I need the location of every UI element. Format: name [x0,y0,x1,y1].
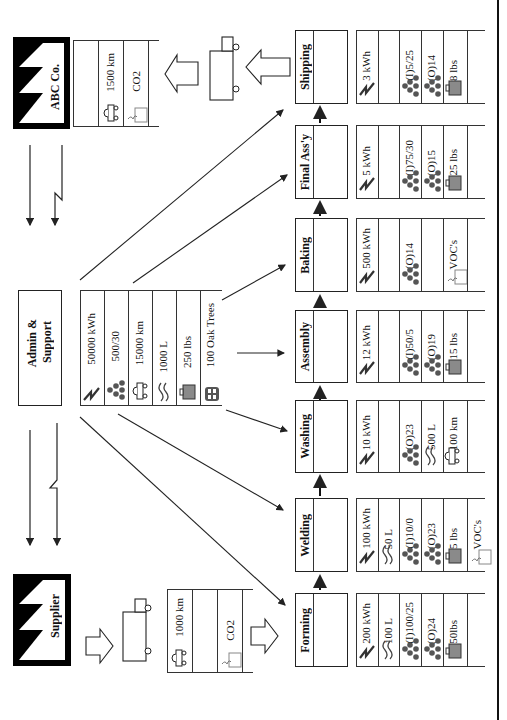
metric-cell: (I)5/25 [399,31,421,103]
metric-cell: (I)50/5 [399,311,421,382]
metric-cell: (O)19 [421,311,443,382]
electricity-icon [359,644,375,664]
process-label: Forming [298,608,313,653]
trash-bin-icon [446,174,464,196]
metric-cell [421,219,443,291]
truck-icon-customer [210,37,239,100]
metric-cell [378,311,399,382]
solid-waste-dots-icon [107,379,127,401]
metric-cell: (O)24 [421,594,443,666]
electricity-icon [359,360,375,380]
metric-value: 8 lbs [448,60,459,81]
metric-cell: 25 lbs [443,126,467,198]
process-forming: Forming [295,593,348,667]
vehicle-icon [134,381,148,401]
supplier-distance: 1000 km [174,598,185,637]
wood-icon [204,386,220,402]
process-welding: Welding [295,498,348,572]
metric-cell: 5 lbs [443,499,467,571]
metric-value: 200 kWh [361,603,372,644]
metric-table-shipping: 3 kWh(I)5/25(O)148 lbs [356,30,485,104]
metric-cell: (O)14 [421,31,443,103]
metric-cell: VOC's [443,219,467,291]
metric-cell: (O)23 [421,499,443,571]
solid-waste-dots-icon [424,543,442,569]
solid-waste-dots-icon [424,170,442,196]
solid-waste-dots-icon [402,638,420,664]
metric-cell: 100 kWh [356,499,378,571]
metric-cell: 3 kWh [356,31,378,103]
info-flow-customer-admin-2 [55,145,62,225]
supplier-transport-table: 1000 km CO2 [167,589,253,673]
admin-solidwaste-value: 500/30 [110,331,121,362]
metric-cell: 8 lbs [443,31,467,103]
info-flow-admin-supplier-2 [50,423,57,545]
process-washing: Washing [295,400,348,473]
supplier-factory: Supplier [13,574,71,666]
process-label: Final Ass'y [298,134,313,190]
vehicle-icon [173,648,187,668]
metric-value: 15 lbs [448,333,459,360]
admin-vehicle-value: 15000 km [134,321,145,365]
metric-value: 100 kWh [361,508,372,549]
solid-waste-dots-icon [402,75,420,101]
solid-waste-dots-icon [424,354,442,380]
metric-cell: VOC's [467,499,485,571]
process-label: Baking [298,237,313,274]
metric-cell: (O)14 [399,219,421,291]
admin-water-value: 1000 L [158,341,169,372]
electricity-icon [359,81,375,101]
metric-cell [378,126,399,198]
admin-trash-value: 250 lbs [182,336,193,368]
metric-value: 10 kWh [361,415,372,450]
customer-label: ABC Co. [49,57,61,117]
metric-cell: 50lbs [443,594,467,666]
solid-waste-dots-icon [424,638,442,664]
customer-factory: ABC Co. [13,37,70,129]
metric-cell [467,219,485,291]
metric-cell [378,401,399,472]
metric-cell: (I)10/0 [399,499,421,571]
emission-icon [470,549,492,569]
electricity-icon [359,176,375,196]
metric-value: 25 lbs [448,149,459,176]
admin-wood-value: 100 Oak Trees [205,303,216,367]
metric-value: 12 kWh [361,325,372,360]
block-arrow-4 [165,55,198,92]
water-icon [381,640,395,664]
metric-cell: 10 kWh [356,401,378,472]
metric-cell [467,126,485,198]
metric-table-final-ass-y: 5 kWh(I)75/30(O)1525 lbs [356,125,485,199]
water-icon [424,446,438,470]
metric-value: 100 km [448,417,459,450]
vehicle-icon [446,446,460,470]
metric-cell: 12 kWh [356,311,378,382]
block-arrow-1 [86,629,113,663]
metric-value: 50lbs [448,620,459,644]
metric-cell: 500 kWh [356,219,378,291]
customer-distance: 1500 km [105,53,116,92]
process-final-assembly: Final Ass'y [295,125,348,199]
metric-cell: (I)100/25 [399,594,421,666]
solid-waste-dots-icon [402,543,420,569]
admin-label-line1: Admin & [26,319,38,367]
block-arrow-3 [246,50,290,84]
electricity-icon [359,269,375,289]
factory-icon [13,574,71,666]
metric-table-forming: 200 kWh100 L(I)100/25(O)2450lbs [356,593,485,667]
process-label: Welding [298,514,313,557]
solid-waste-dots-icon [402,354,420,380]
customer-transport-table: 1500 km CO2 [73,40,159,127]
metric-cell: (O)15 [421,126,443,198]
metric-cell [467,594,485,666]
solid-waste-dots-icon [402,444,420,470]
process-assembly: Assembly [295,310,348,383]
metric-cell [467,401,485,472]
water-icon [381,545,395,569]
electricity-icon [83,386,101,402]
electricity-icon [359,549,375,569]
trash-bin-icon [446,79,464,101]
solid-waste-dots-icon [402,170,420,196]
process-label: Washing [298,414,313,459]
metric-value: VOC's [472,520,483,550]
